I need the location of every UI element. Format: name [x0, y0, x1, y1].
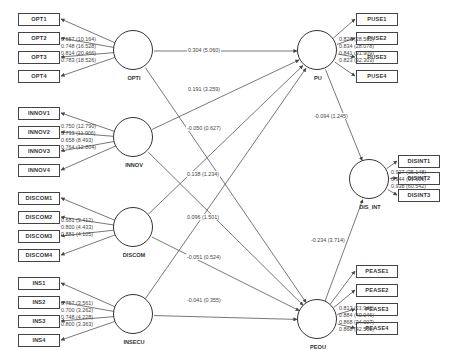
- indicator-ins1[interactable]: INS1: [18, 277, 60, 290]
- path-coefficient-label: 0.096 (1.501): [186, 214, 220, 220]
- loading-label: 0.764 (12.804): [61, 144, 96, 151]
- indicator-puse1[interactable]: PUSE1: [356, 13, 398, 26]
- path-discom-pu: [148, 66, 302, 215]
- indicator-innov2[interactable]: INNOV2: [18, 126, 60, 139]
- path-coefficient-label: 0.304 (5.060): [187, 47, 221, 53]
- loading-label: 0.733 (11.906): [61, 130, 96, 137]
- indicator-opt1[interactable]: OPT1: [18, 13, 60, 26]
- indicator-ins4[interactable]: INS4: [18, 334, 60, 347]
- latent-label-opti: OPTI: [109, 75, 159, 81]
- path-innov-pu: [152, 60, 299, 129]
- loading-label: 0.834 (28.078): [339, 43, 374, 50]
- indicator-ins2[interactable]: INS2: [18, 296, 60, 309]
- loading-arrow-discom4: [61, 235, 115, 255]
- indicator-opt4[interactable]: OPT4: [18, 70, 60, 83]
- latent-innov[interactable]: [113, 117, 153, 157]
- path-innov-peou: [148, 152, 303, 305]
- loading-label: 0.814 (20.466): [61, 50, 96, 57]
- loading-label: 0.826 (28.582): [339, 36, 374, 43]
- path-coefficient-label: -0.041 (0.355): [186, 297, 222, 303]
- indicator-ins3[interactable]: INS3: [18, 315, 60, 328]
- loading-label: 0.841 (31.909): [339, 50, 374, 57]
- indicator-disint1[interactable]: DISINT1: [398, 155, 440, 168]
- indicator-discom1[interactable]: DISCOM1: [18, 192, 60, 205]
- indicator-discom2[interactable]: DISCOM2: [18, 211, 60, 224]
- path-coefficient-label: 0.191 (3.259): [187, 86, 221, 92]
- loading-label: 0.700 (3.262): [61, 307, 93, 314]
- loading-label: 0.783 (18.526): [61, 57, 96, 64]
- indicator-puse4[interactable]: PUSE4: [356, 70, 398, 83]
- loading-label: 0.823 (32.303): [339, 57, 374, 64]
- loading-label: 0.658 (8.493): [61, 137, 93, 144]
- latent-pu[interactable]: [297, 30, 337, 70]
- indicator-innov3[interactable]: INNOV3: [18, 145, 60, 158]
- indicator-discom4[interactable]: DISCOM4: [18, 249, 60, 262]
- loading-label: 0.884 (40.046): [339, 312, 374, 319]
- indicator-discom3[interactable]: DISCOM3: [18, 230, 60, 243]
- loading-label: 0.757 (3.561): [61, 300, 93, 307]
- path-coefficient-label: 0.138 (1.234): [186, 171, 220, 177]
- latent-insecu[interactable]: [113, 294, 153, 334]
- loading-label: 0.748 (4.228): [61, 314, 93, 321]
- loading-label: 0.868 (34.007): [339, 319, 374, 326]
- loading-arrow-puse4: [335, 62, 355, 76]
- path-coefficient-label: -0.234 (3.714): [310, 237, 346, 243]
- latent-peou[interactable]: [297, 299, 337, 339]
- loading-label: 0.938 (60.542): [391, 183, 426, 190]
- loading-label: 0.750 (12.790): [61, 123, 96, 130]
- loading-label: 0.681 (3.412): [61, 217, 93, 224]
- latent-label-insecu: INSECU: [109, 339, 159, 345]
- indicator-opt3[interactable]: OPT3: [18, 51, 60, 64]
- loading-arrow-disint3: [388, 189, 397, 195]
- latent-discom[interactable]: [113, 207, 153, 247]
- loading-label: 0.881 (4.105): [61, 231, 93, 238]
- indicator-disint3[interactable]: DISINT3: [398, 189, 440, 202]
- latent-label-innov: INNOV: [109, 162, 159, 168]
- loading-label: 0.748 (16.528): [61, 43, 96, 50]
- indicator-opt2[interactable]: OPT2: [18, 32, 60, 45]
- loading-label: 0.868 (42.590): [339, 326, 374, 333]
- indicator-pease2[interactable]: PEASE2: [356, 284, 398, 297]
- latent-label-dis-int: DIS_INT: [345, 204, 395, 210]
- latent-opti[interactable]: [113, 30, 153, 70]
- latent-label-peou: PEOU: [293, 344, 343, 350]
- path-coefficient-label: -0.094 (1.245): [313, 113, 349, 119]
- path-insecu-peou: [154, 316, 297, 320]
- indicator-innov4[interactable]: INNOV4: [18, 164, 60, 177]
- loading-label: 0.657 (10.164): [61, 36, 96, 43]
- latent-label-discom: DISCOM: [109, 252, 159, 258]
- latent-dis-int[interactable]: [349, 159, 389, 199]
- loading-label: 0.800 (3.363): [61, 321, 93, 328]
- path-coefficient-label: -0.050 (0.627): [186, 125, 222, 131]
- loading-label: 0.800 (4.433): [61, 224, 93, 231]
- latent-label-pu: PU: [293, 75, 343, 81]
- indicator-pease1[interactable]: PEASE1: [356, 265, 398, 278]
- indicator-innov1[interactable]: INNOV1: [18, 107, 60, 120]
- loading-label: 0.813 (21.946): [339, 305, 374, 312]
- loading-label: 0.944 (99.606): [391, 176, 426, 183]
- path-coefficient-label: -0.051 (0.524): [186, 254, 222, 260]
- loading-label: 0.927 (35.148): [391, 169, 426, 176]
- path-discom-peou: [152, 237, 299, 311]
